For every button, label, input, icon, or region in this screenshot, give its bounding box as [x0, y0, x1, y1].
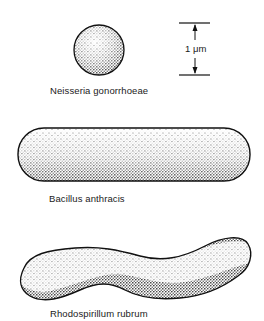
bacteria-shapes-diagram — [0, 0, 264, 321]
label-neisseria-gonorrhoeae: Neisseria gonorrhoeae — [50, 85, 148, 96]
rhodospirillum-spiral-drawing — [15, 230, 255, 310]
neisseria-coccus-drawing — [70, 20, 130, 80]
label-rhodospirillum-rubrum: Rhodospirillum rubrum — [50, 308, 148, 319]
scale-bar-label: 1 μm — [185, 42, 206, 55]
label-bacillus-anthracis: Bacillus anthracis — [49, 193, 125, 204]
bacillus-rod-drawing — [18, 128, 250, 181]
